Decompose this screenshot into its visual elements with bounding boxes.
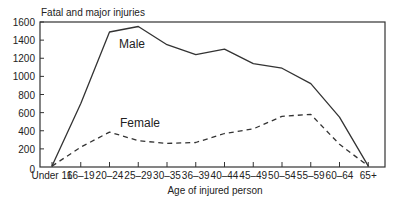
y-axis: 02004006008001000120014001600 (13, 17, 44, 175)
x-tick-label: 60–64 (326, 170, 354, 181)
line-chart: 02004006008001000120014001600 Under 1616… (0, 0, 398, 208)
y-tick-label: 1000 (13, 71, 36, 82)
x-tick-label: 30–35 (153, 170, 181, 181)
x-tick-label: 45–49 (239, 170, 267, 181)
y-tick-label: 600 (18, 108, 35, 119)
plot-frame (40, 22, 385, 167)
x-tick-label: 16–19 (67, 170, 95, 181)
x-axis-label: Age of injured person (167, 185, 262, 196)
y-tick-label: 1400 (13, 35, 36, 46)
series-line-female (52, 114, 368, 166)
series-label-female: Female (120, 116, 160, 130)
x-tick-label: 50–54 (268, 170, 296, 181)
y-tick-label: 400 (18, 126, 35, 137)
x-tick-label: 25–29 (124, 170, 152, 181)
plot-border (40, 22, 385, 167)
x-tick-label: 65+ (360, 170, 377, 181)
x-tick-label: 40–44 (211, 170, 239, 181)
x-tick-label: 20–24 (96, 170, 124, 181)
y-axis-label: Fatal and major injuries (41, 7, 145, 18)
series-lines (52, 27, 368, 167)
y-tick-label: 800 (18, 90, 35, 101)
y-tick-label: 1200 (13, 53, 36, 64)
x-tick-label: 55–59 (297, 170, 325, 181)
y-tick-label: 200 (18, 144, 35, 155)
x-tick-label: 36–39 (182, 170, 210, 181)
series-label-male: Male (119, 37, 145, 51)
y-tick-label: 1600 (13, 17, 36, 28)
x-axis: Under 1616–1920–2425–2930–3536–3940–4445… (31, 162, 376, 181)
series-line-male (52, 27, 368, 167)
